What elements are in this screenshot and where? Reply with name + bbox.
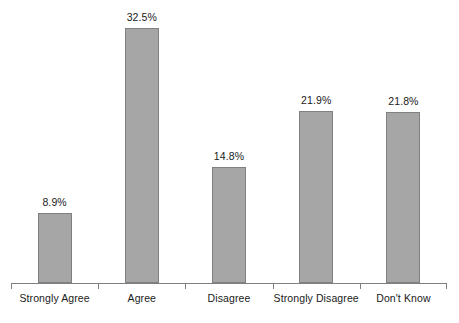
x-axis-tick-1 [98,284,99,289]
bar-value-dont-know: 21.8% [388,95,418,107]
bar-slot-disagree: 14.8% [185,0,272,283]
category-label-dont-know: Don't Know [376,292,430,304]
x-axis-category-labels: Strongly Agree Agree Disagree Strongly D… [11,292,447,312]
x-axis-tick-start [11,284,12,289]
bar-slot-strongly-disagree: 21.9% [273,0,360,283]
plot-area: 8.9% 32.5% 14.8% 21.9% 21.8% [11,0,447,283]
bar-chart: 8.9% 32.5% 14.8% 21.9% 21.8% Strongly [0,0,459,323]
bar-strongly-disagree[interactable] [299,111,333,283]
category-label-agree: Agree [128,292,157,304]
bar-slot-dont-know: 21.8% [360,0,447,283]
bar-value-agree: 32.5% [127,11,157,23]
bar-strongly-agree[interactable] [38,213,72,283]
x-axis-tick-end [446,284,447,289]
x-axis-tick-2 [185,284,186,289]
bar-dont-know[interactable] [386,112,420,283]
x-axis-line [11,283,447,284]
category-label-strongly-disagree: Strongly Disagree [274,292,359,304]
x-axis-tick-3 [273,284,274,289]
bar-slot-agree: 32.5% [98,0,185,283]
category-label-strongly-agree: Strongly Agree [19,292,89,304]
bar-value-strongly-disagree: 21.9% [301,94,331,106]
bar-value-disagree: 14.8% [214,150,244,162]
category-label-disagree: Disagree [208,292,251,304]
bar-disagree[interactable] [212,167,246,283]
bar-value-strongly-agree: 8.9% [42,196,66,208]
bar-agree[interactable] [125,28,159,283]
x-axis-tick-4 [360,284,361,289]
bar-slot-strongly-agree: 8.9% [11,0,98,283]
